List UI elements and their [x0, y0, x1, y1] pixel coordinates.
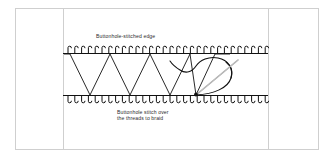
- figure-container: Buttonhole-stitched edge Buttonhole stit…: [0, 0, 334, 163]
- label-bottom-line-2: the threads to braid: [117, 115, 169, 121]
- figure-frame: [16, 9, 319, 150]
- top-stitched-edge: [63, 46, 269, 53]
- zigzag-laid-threads: [64, 54, 230, 95]
- label-buttonhole-stitched-edge: Buttonhole-stitched edge: [96, 33, 155, 39]
- diagram-svg: [0, 0, 334, 163]
- bottom-stitched-edge: [63, 96, 269, 103]
- label-buttonhole-stitch-over-threads: Buttonhole stitch over the threads to br…: [117, 109, 169, 122]
- label-top-line-1: Buttonhole-stitched edge: [96, 33, 155, 39]
